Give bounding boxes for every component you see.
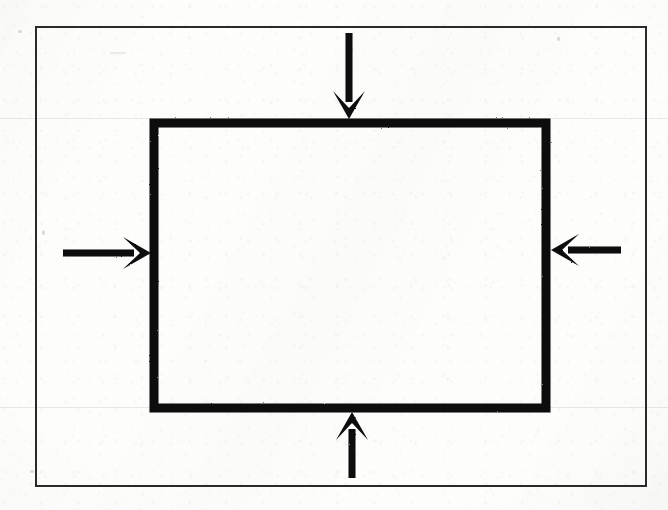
arrow-left	[63, 237, 151, 269]
loaded-rectangle	[154, 123, 546, 408]
arrow-top-shaft	[346, 33, 353, 102]
scanned-page	[0, 0, 668, 510]
arrow-left-shaft	[63, 250, 134, 257]
arrow-right	[551, 234, 621, 266]
arrow-bottom	[336, 412, 368, 478]
arrow-top	[333, 33, 365, 119]
arrow-right-shaft	[568, 247, 621, 254]
arrow-bottom-shaft	[349, 429, 356, 478]
compression-diagram	[0, 0, 668, 510]
